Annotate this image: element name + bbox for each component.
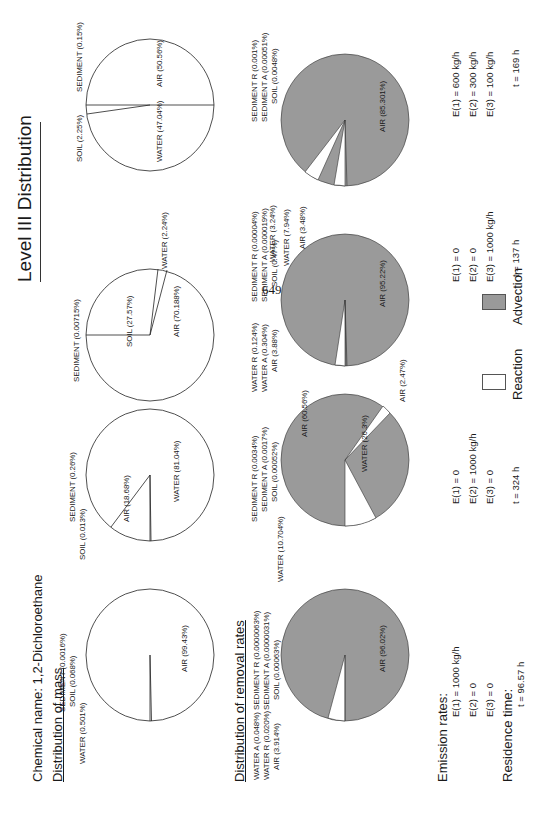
label-sediment: SEDIMENT (0.0016%) xyxy=(58,633,67,712)
label-water: WATER (0.501%) xyxy=(78,703,87,764)
label-soil: SOIL (2.25%) xyxy=(75,115,84,162)
label-sediment: SEDIMENT (0.00715%) xyxy=(72,299,81,382)
label-air-a: AIR (95.22%) xyxy=(378,260,387,307)
legend-reaction-label: Reaction xyxy=(510,349,525,400)
rotated-page: Level III Distribution Chemical name: 1,… xyxy=(0,0,553,822)
scenario-2-e3: E(3) = 0 xyxy=(484,470,495,504)
label-air-r: AIR (2.47%) xyxy=(398,360,407,402)
scenario-2-e1: E(1) = 0 xyxy=(450,470,461,504)
label-air: AIR (50.56%) xyxy=(155,40,164,87)
removal-pie-4 xyxy=(281,54,409,186)
label-sediment-r: SEDIMENT R (0.0034%) xyxy=(250,436,259,522)
label-water: WATER (2.24%) xyxy=(160,212,169,269)
scenario-1-e2: E(2) = 0 xyxy=(467,683,478,717)
scenario-2-time: t = 324 h xyxy=(510,467,521,504)
label-sediment-r: SEDIMENT R (0.0000063%) xyxy=(252,611,261,710)
label-water-a: WATER A (0.048%) xyxy=(252,712,261,780)
scenario-4-time: t = 169 h xyxy=(510,50,521,87)
page-number: 649 xyxy=(262,282,282,298)
label-soil: SOIL (0.00063%) xyxy=(272,640,281,700)
label-sediment-a: SEDIMENT A (0.0017%) xyxy=(260,427,269,512)
scenario-1-e3: E(3) = 0 xyxy=(484,683,495,717)
removal-pie-3 xyxy=(281,234,409,366)
label-air-a: AIR (60.56%) xyxy=(300,390,309,437)
label-air: AIR (18.68%) xyxy=(122,475,131,522)
label-sediment-r: SEDIMENT R (0.001%) xyxy=(250,40,259,122)
label-soil: SOIL (27.57%) xyxy=(125,296,134,347)
label-water-a: WATER (7.94%) xyxy=(282,209,291,266)
label-air-r: AIR (3.48%) xyxy=(298,207,307,249)
scenario-4-e3: E(3) = 100 kg/h xyxy=(484,52,495,117)
label-sediment-a: SEDIMENT A (0.00051%) xyxy=(260,33,269,122)
scenario-3-e3: E(3) = 1000 kg/h xyxy=(484,211,495,282)
label-air-r: AIR (3.88%) xyxy=(270,330,279,372)
label-air: AIR (99.43%) xyxy=(180,625,189,672)
mass-pie-4 xyxy=(86,39,214,171)
mass-pie-1 xyxy=(86,589,214,721)
legend-advection-label: Advection xyxy=(510,268,525,325)
legend-reaction-swatch xyxy=(482,374,506,390)
scenario-3-e2: E(2) = 0 xyxy=(467,248,478,282)
label-sediment-r: SEDIMENT R (0.00004%) xyxy=(250,211,259,302)
label-air-r: AIR (3.914%) xyxy=(272,723,281,770)
mass-pie-2 xyxy=(86,409,214,541)
scenario-4-e2: E(2) = 300 kg/h xyxy=(467,52,478,117)
scenario-3-e1: E(1) = 0 xyxy=(450,248,461,282)
label-water-r: WATER (3.24%) xyxy=(268,205,277,262)
label-soil: SOIL (0.068%) xyxy=(68,656,77,707)
label-soil: SOIL (0.0048%) xyxy=(270,48,279,104)
scenario-1-e1: E(1) = 1000 kg/h xyxy=(450,646,461,717)
label-sediment-a: SEDIMENT A (0.0000031%) xyxy=(262,612,271,710)
label-air: AIR (70.188%) xyxy=(172,286,181,337)
label-water-r: WATER R (0.124%) xyxy=(250,323,259,392)
removal-pie-1 xyxy=(281,589,409,721)
label-sediment: SEDIMENT (0.26%) xyxy=(68,452,77,522)
legend-advection-swatch xyxy=(482,294,506,310)
label-water-r: WATER R (0.020%) xyxy=(262,711,271,780)
scenario-4-e1: E(1) = 600 kg/h xyxy=(450,52,461,117)
label-water: WATER (47.04%) xyxy=(155,101,164,162)
scenario-1-time: t = 96.57 h xyxy=(515,662,526,707)
residence-heading: Residence time: xyxy=(500,689,515,782)
label-air-a: AIR (96.02%) xyxy=(378,625,387,672)
label-air-a: AIR (85.301%) xyxy=(378,81,387,132)
scenario-2-e2: E(2) = 1000 kg/h xyxy=(467,433,478,504)
label-water-a: WATER A (0.304%) xyxy=(260,324,269,392)
label-soil: SOIL (0.013%) xyxy=(78,509,87,560)
label-water-r: WATER (10.704%) xyxy=(276,516,285,582)
label-water-a: WATER (26.3%) xyxy=(360,415,369,472)
label-water: WATER (81.04%) xyxy=(172,441,181,502)
mass-pie-3 xyxy=(86,269,214,401)
label-soil: SOIL (0.00052%) xyxy=(270,442,279,502)
emission-heading: Emission rates: xyxy=(435,693,450,782)
label-sediment: SEDIMENT (0.15%) xyxy=(75,22,84,92)
